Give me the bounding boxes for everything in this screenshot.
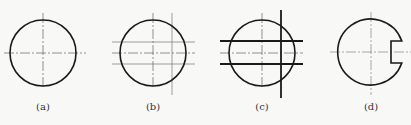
drawing-steps-diagram bbox=[0, 0, 411, 125]
panel-label-b: (b) bbox=[146, 101, 160, 112]
panel-d bbox=[330, 12, 411, 95]
panel-c bbox=[220, 10, 303, 98]
panel-label-c: (c) bbox=[255, 101, 268, 112]
panel-label-a: (a) bbox=[36, 101, 50, 112]
panel-a bbox=[4, 13, 86, 89]
panel-label-d: (d) bbox=[364, 101, 378, 112]
panel-b bbox=[112, 13, 195, 95]
